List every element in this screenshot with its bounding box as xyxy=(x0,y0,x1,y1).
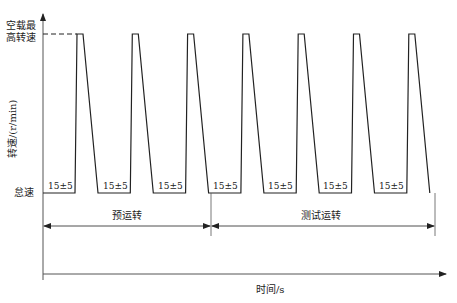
max-speed-label-line2: 高转速 xyxy=(6,32,36,43)
x-axis-label: 时间/s xyxy=(256,284,285,295)
idle-hold-label: 15±5 xyxy=(103,181,128,191)
pre-run-phase-label: 预运转 xyxy=(112,210,142,221)
idle-hold-label: 15±5 xyxy=(158,181,183,191)
idle-hold-label: 15±5 xyxy=(268,181,293,191)
idle-hold-label: 15±5 xyxy=(323,181,348,191)
idle-hold-label: 15±5 xyxy=(213,181,238,191)
test-run-phase-label: 测试运转 xyxy=(301,210,341,221)
idle-hold-label: 15±5 xyxy=(379,181,404,191)
max-speed-label-line1: 空载最 xyxy=(6,20,36,31)
idle-hold-label: 15±5 xyxy=(48,181,73,191)
y-axis-label: 转速/(r/min) xyxy=(4,100,19,158)
speed-time-diagram xyxy=(0,0,457,303)
speed-waveform xyxy=(43,34,430,193)
idle-speed-label: 怠速 xyxy=(14,187,34,198)
